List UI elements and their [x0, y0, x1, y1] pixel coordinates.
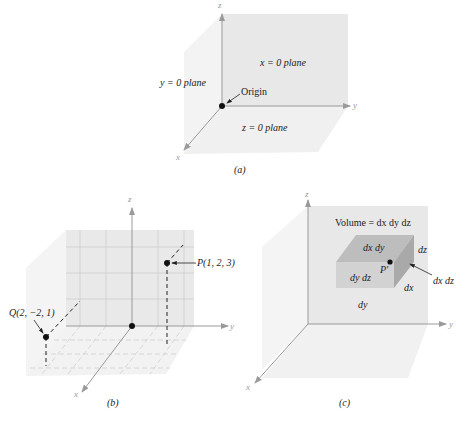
figure-b: z y x P(1, 2, 3) Q(2, −2, 1) (b) [9, 194, 235, 409]
b-origin-point [129, 323, 135, 329]
origin-point [219, 103, 225, 109]
dx-edge-label: dx [404, 282, 414, 293]
c-y-axis-label: y [448, 319, 453, 329]
coordinate-diagrams: z y x Origin x = 0 plane y = 0 plane z =… [0, 0, 470, 425]
figure-c: z y x Volume = dx dy dz dx dy dy dz dz d… [245, 189, 454, 409]
figure-a: z y x Origin x = 0 plane y = 0 plane z =… [159, 0, 357, 176]
caption-a: (a) [234, 164, 246, 176]
z-axis-label: z [217, 0, 222, 10]
caption-c: (c) [339, 397, 351, 409]
b-x-axis-label: x [73, 389, 78, 399]
point-p-label: P(1, 2, 3) [196, 257, 235, 269]
b-z-axis-label: z [127, 194, 132, 204]
y-axis-label: y [352, 100, 357, 110]
x-plane-label: x = 0 plane [259, 57, 306, 68]
c-z-axis-label: z [304, 189, 309, 199]
point-p [164, 260, 170, 266]
x-axis-label: x [175, 152, 180, 162]
point-p-prime-label: P′ [379, 264, 389, 275]
top-face-label: dx dy [363, 242, 385, 253]
y-plane-label: y = 0 plane [159, 77, 206, 88]
point-q [43, 334, 49, 340]
caption-b: (b) [107, 397, 119, 409]
volume-label: Volume = dx dy dz [335, 217, 412, 228]
z-plane-label: z = 0 plane [241, 122, 288, 133]
point-q-label: Q(2, −2, 1) [9, 307, 55, 319]
b-back-plane [66, 230, 194, 326]
side-face-label: dx dz [433, 275, 454, 286]
c-x-axis-label: x [245, 382, 250, 392]
dy-edge-label: dy [358, 299, 368, 310]
origin-label: Origin [241, 86, 267, 97]
dz-edge-label: dz [418, 244, 427, 255]
b-y-axis-label: y [229, 321, 234, 331]
front-face-label: dy dz [350, 272, 371, 283]
